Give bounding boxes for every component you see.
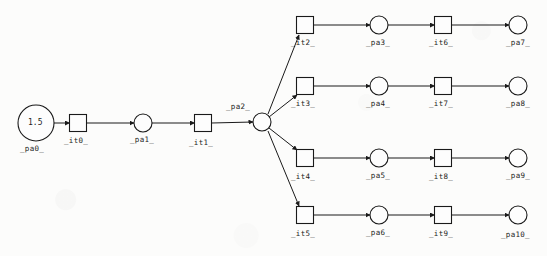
- place-pa6[interactable]: [370, 206, 388, 224]
- place-pa4[interactable]: [370, 77, 388, 95]
- transition-label-it1: _it1_: [189, 139, 213, 147]
- transition-it5[interactable]: [297, 207, 314, 224]
- place-pa8[interactable]: [509, 77, 527, 95]
- transition-it2[interactable]: [297, 17, 314, 34]
- transition-label-it2: _it2_: [291, 39, 315, 47]
- arc-pa2-to-it4: [269, 128, 297, 150]
- transition-it9[interactable]: [435, 207, 452, 224]
- transition-label-it9: _it9_: [429, 230, 453, 238]
- place-label-pa2: _pa2_: [226, 103, 250, 111]
- place-label-pa0: _pa0_: [20, 145, 44, 153]
- place-label-pa1: _pa1_: [130, 136, 154, 144]
- transition-it4[interactable]: [297, 150, 314, 167]
- transition-it7[interactable]: [435, 78, 452, 95]
- place-pa7[interactable]: [509, 16, 527, 34]
- transition-label-it5: _it5_: [291, 230, 315, 238]
- place-label-pa10: _pa10_: [501, 231, 530, 239]
- transition-label-it7: _it7_: [429, 100, 453, 108]
- place-label-pa7: _pa7_: [506, 39, 530, 47]
- place-pa9[interactable]: [509, 149, 527, 167]
- place-label-pa4: _pa4_: [366, 100, 390, 108]
- transition-label-it6: _it6_: [429, 39, 453, 47]
- place-token-pa0: 1.5: [28, 119, 42, 127]
- place-pa2[interactable]: [253, 113, 271, 131]
- place-label-pa9: _pa9_: [506, 172, 530, 180]
- transition-label-it0: _it0_: [64, 137, 88, 145]
- transition-it3[interactable]: [297, 78, 314, 95]
- arc-it1-to-pa2: [212, 122, 254, 123]
- transition-it0[interactable]: [70, 115, 87, 132]
- arcs-layer: [54, 25, 509, 215]
- petri-net-canvas: [0, 0, 547, 256]
- transition-it1[interactable]: [195, 115, 212, 132]
- place-label-pa6: _pa6_: [366, 229, 390, 237]
- place-label-pa3: _pa3_: [366, 39, 390, 47]
- place-pa3[interactable]: [370, 16, 388, 34]
- petri-net-diagram: _pa0_1.5_pa1__pa2__pa3__pa4__pa5__pa6__p…: [0, 0, 547, 256]
- transition-it8[interactable]: [435, 150, 452, 167]
- place-pa5[interactable]: [370, 149, 388, 167]
- arc-pa2-to-it5: [268, 131, 299, 206]
- transition-label-it3: _it3_: [291, 100, 315, 108]
- nodes-layer: [18, 16, 527, 224]
- place-pa1[interactable]: [134, 114, 152, 132]
- transition-label-it8: _it8_: [429, 173, 453, 181]
- place-label-pa8: _pa8_: [506, 100, 530, 108]
- place-pa10[interactable]: [509, 206, 527, 224]
- transition-label-it4: _it4_: [291, 173, 315, 181]
- transition-it6[interactable]: [435, 17, 452, 34]
- place-label-pa5: _pa5_: [366, 172, 390, 180]
